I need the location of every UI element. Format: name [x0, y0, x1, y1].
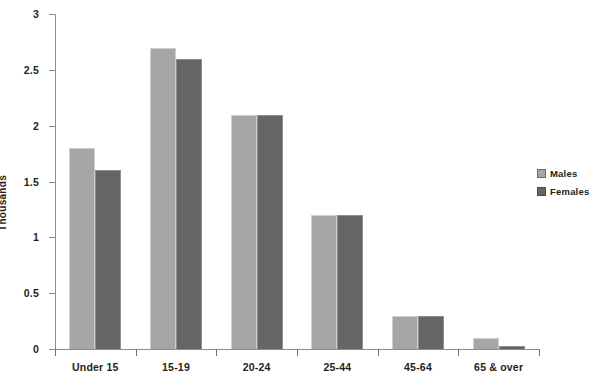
y-axis-title-label: Thousands — [0, 175, 8, 231]
bar-males-65-over — [473, 338, 499, 349]
legend-item-males[interactable]: Males — [537, 166, 589, 181]
bar-females-20-24 — [257, 115, 283, 350]
y-tick-label: 1.5 — [24, 176, 39, 188]
bar-males-45-64 — [392, 316, 418, 350]
y-tick-label: 2.5 — [24, 64, 39, 76]
bar-males-15-19 — [150, 48, 176, 350]
legend-swatch-icon — [537, 187, 546, 196]
legend-label: Females — [550, 186, 589, 197]
y-tick-label: 1 — [33, 231, 39, 243]
x-tick-mark — [216, 349, 217, 356]
x-category-label: 15-19 — [162, 361, 190, 373]
x-category-label: 65 & over — [474, 361, 523, 373]
y-tick-label: 3 — [33, 8, 39, 20]
x-tick-mark — [136, 349, 137, 356]
bar-females-45-64 — [418, 316, 444, 350]
bar-males-under-15 — [69, 148, 95, 349]
legend-swatch-icon — [537, 169, 546, 178]
bar-females-under-15 — [95, 170, 121, 349]
x-tick-mark — [539, 349, 540, 356]
bar-females-65-over — [499, 346, 525, 349]
x-category-label: 25-44 — [323, 361, 351, 373]
y-tick-label: 0 — [33, 343, 39, 355]
bars-layer — [55, 14, 539, 349]
x-category-label: Under 15 — [72, 361, 119, 373]
bar-females-25-44 — [337, 215, 363, 349]
x-tick-mark — [297, 349, 298, 356]
x-category-label: 45-64 — [404, 361, 432, 373]
chart-root: 00.511.522.53 Thousands Under 1515-1920-… — [0, 0, 610, 383]
y-tick-label: 0.5 — [24, 287, 39, 299]
bar-females-15-19 — [176, 59, 202, 349]
legend-label: Males — [550, 168, 577, 179]
x-category-label: 20-24 — [243, 361, 271, 373]
x-tick-mark — [458, 349, 459, 356]
chart-legend: MalesFemales — [537, 166, 589, 202]
bar-males-20-24 — [231, 115, 257, 350]
x-tick-mark — [55, 349, 56, 356]
y-tick-label: 2 — [33, 120, 39, 132]
y-axis-title: Thousands — [8, 230, 9, 231]
bar-males-25-44 — [311, 215, 337, 349]
legend-item-females[interactable]: Females — [537, 184, 589, 199]
x-tick-mark — [378, 349, 379, 356]
